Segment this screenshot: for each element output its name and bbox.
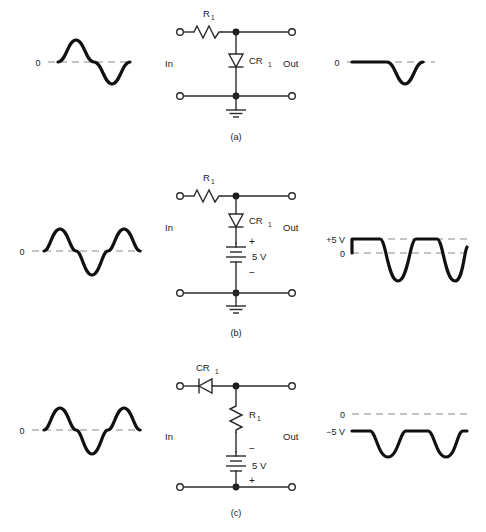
row-c-input-waveform: 0 (19, 408, 142, 454)
row-a-diode-label: CR (249, 55, 263, 66)
row-b-caption: (b) (230, 328, 241, 338)
row-c-diode-triangle (199, 379, 212, 393)
row-c-input-top-terminal (177, 383, 184, 390)
figure-root: 0 R 1 CR 1 (0, 0, 486, 532)
row-c-battery-bottom-polarity: + (249, 475, 255, 486)
row-b-output-top-terminal (289, 193, 296, 200)
row-c-resistor-symbol (230, 406, 242, 433)
row-a-input-sine (58, 40, 130, 84)
row-c-input-sine (44, 408, 140, 454)
row-a-output-bottom-terminal (289, 93, 296, 100)
row-b-input-bottom-terminal (177, 290, 184, 297)
row-c-battery-label: 5 V (252, 460, 267, 471)
row-c: 0 CR 1 R 1 (19, 362, 467, 518)
row-c-output-top-terminal (289, 383, 296, 390)
row-b-diode-subscript: 1 (268, 221, 272, 228)
row-c-battery-top-polarity: − (249, 443, 255, 454)
row-c-output-zero-label: 0 (340, 410, 345, 420)
row-b: 0 R 1 CR 1 (19, 172, 467, 338)
row-b-battery-label: 5 V (252, 251, 267, 262)
row-a-resistor-label: R (203, 8, 210, 19)
row-b-output-zero-label: 0 (340, 249, 345, 259)
row-c-output-bottom-terminal (289, 484, 296, 491)
row-a-diode-subscript: 1 (268, 61, 272, 68)
row-c-resistor-subscript: 1 (257, 415, 261, 422)
row-c-input-label: In (165, 431, 173, 442)
row-b-output-label: Out (283, 222, 299, 233)
row-c-caption: (c) (231, 508, 242, 518)
row-b-input-zero-label: 0 (19, 247, 24, 257)
row-a-resistor-subscript: 1 (211, 14, 215, 21)
row-a-circuit: R 1 CR 1 In Out (165, 8, 299, 142)
row-c-diode-subscript: 1 (215, 368, 219, 375)
row-c-output-label: Out (283, 431, 299, 442)
row-a-output-zero-label: 0 (334, 58, 339, 68)
row-a-output-label: Out (283, 58, 299, 69)
row-b-output-waveform: +5 V 0 (326, 235, 467, 282)
row-b-output-bottom-terminal (289, 290, 296, 297)
row-c-input-bottom-terminal (177, 484, 184, 491)
row-b-battery-bottom-polarity: − (249, 267, 255, 278)
row-a-input-label: In (165, 58, 173, 69)
row-c-output-waveform: 0 −5 V (326, 410, 467, 458)
row-a: 0 R 1 CR 1 (35, 8, 435, 142)
row-c-circuit: CR 1 R 1 − 5 V + In (165, 362, 299, 518)
row-c-resistor-label: R (249, 409, 256, 420)
row-b-circuit: R 1 CR 1 + 5 V − (165, 172, 299, 338)
row-b-diode-triangle (229, 214, 243, 227)
row-a-input-waveform: 0 (35, 40, 130, 84)
row-a-resistor-symbol (194, 26, 222, 38)
row-b-resistor-label: R (203, 172, 210, 183)
row-c-input-zero-label: 0 (19, 426, 24, 436)
row-b-diode-label: CR (249, 215, 263, 226)
row-c-output-clip-label: −5 V (326, 427, 345, 437)
row-a-input-top-terminal (177, 29, 184, 36)
row-b-output-clipped-wave (352, 239, 467, 281)
row-b-input-waveform: 0 (19, 229, 142, 275)
row-a-output-clipped-wave (352, 62, 423, 84)
row-b-resistor-symbol (194, 190, 222, 202)
row-a-input-zero-label: 0 (35, 58, 40, 68)
row-b-input-top-terminal (177, 193, 184, 200)
row-c-diode-label: CR (196, 362, 210, 373)
row-a-diode-triangle (229, 54, 243, 67)
row-a-output-waveform: 0 (334, 58, 435, 85)
row-b-resistor-subscript: 1 (211, 178, 215, 185)
row-a-input-bottom-terminal (177, 93, 184, 100)
row-a-output-top-terminal (289, 29, 296, 36)
row-b-output-clip-label: +5 V (326, 235, 345, 245)
row-c-output-clipped-wave (352, 431, 467, 457)
row-b-input-label: In (165, 222, 173, 233)
row-b-battery-top-polarity: + (249, 236, 255, 247)
row-a-caption: (a) (230, 132, 241, 142)
circuit-figure: 0 R 1 CR 1 (0, 0, 486, 532)
row-b-input-sine (44, 229, 140, 275)
